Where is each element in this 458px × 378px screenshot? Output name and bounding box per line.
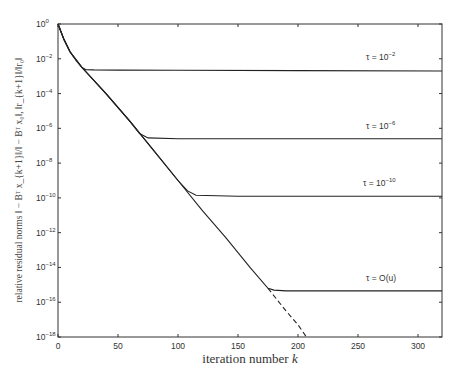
annotation-tau-1e-6: τ = 10−6 xyxy=(366,120,396,131)
x-tick-label: 50 xyxy=(113,341,123,351)
y-tick-label: 10−8 xyxy=(36,157,53,168)
y-tick-label: 10−10 xyxy=(36,192,56,203)
y-tick-label: 10−2 xyxy=(36,53,53,64)
x-tick-label: 150 xyxy=(231,341,245,351)
series-line-2 xyxy=(58,24,442,196)
series-line-0 xyxy=(58,24,442,71)
y-tick-label: 10−16 xyxy=(36,296,56,307)
x-tick-label: 100 xyxy=(171,341,185,351)
y-tick-label: 10−18 xyxy=(36,331,56,342)
x-tick-label: 200 xyxy=(291,341,305,351)
y-tick-label: 10−12 xyxy=(36,227,56,238)
x-tick-label: 250 xyxy=(351,341,365,351)
y-tick-label: 100 xyxy=(36,18,49,29)
residual-chart: 05010015020025030010010−210−410−610−810−… xyxy=(0,0,458,378)
y-tick-label: 10−4 xyxy=(36,88,53,99)
series-line-3 xyxy=(58,24,442,291)
annotation-tau-1e-2: τ = 10−2 xyxy=(366,51,396,62)
series-line-4 xyxy=(268,288,306,337)
x-axis-label: iteration number k xyxy=(202,351,298,366)
annotation-tau-1e-10: τ = 10−10 xyxy=(363,177,396,188)
x-tick-label: 0 xyxy=(56,341,61,351)
annotation-tau-ou: τ = O(u) xyxy=(366,273,396,283)
y-axis-label: relative residual norms ‖ − Bᵀ x_{k+1}‖/… xyxy=(14,57,24,303)
x-tick-label: 300 xyxy=(411,341,425,351)
y-tick-label: 10−6 xyxy=(36,122,53,133)
y-tick-label: 10−14 xyxy=(36,261,56,272)
